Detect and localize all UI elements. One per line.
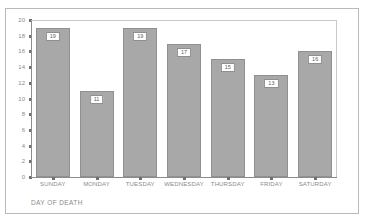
- bar-friday[interactable]: [254, 75, 288, 177]
- bar-value-label: 16: [308, 55, 322, 64]
- bar-value-label: 11: [90, 95, 104, 104]
- bar-value-label: 13: [264, 79, 278, 88]
- bar-value-label: 19: [46, 32, 60, 41]
- bar-thursday[interactable]: [211, 59, 245, 177]
- y-axis-tick-label: 10: [6, 96, 25, 102]
- y-axis-tick-label: 4: [6, 143, 25, 149]
- y-axis-tick-label: 8: [6, 111, 25, 117]
- bar-value-label: 19: [133, 32, 147, 41]
- bar-tuesday[interactable]: [123, 28, 157, 177]
- x-axis-label-friday: FRIDAY: [250, 181, 294, 188]
- x-axis-tick: [270, 177, 273, 180]
- y-axis-tick-label: 2: [6, 158, 25, 164]
- x-axis-tick: [183, 177, 186, 180]
- x-axis-label-thursday: THURSDAY: [206, 181, 250, 188]
- y-axis-tick-label: 14: [6, 64, 25, 70]
- chart-frame: 20181614121086420 19111917151316 SUNDAYM…: [5, 8, 359, 214]
- x-axis-tick: [139, 177, 142, 180]
- y-axis-tick-label: 20: [6, 17, 25, 23]
- x-axis-tick: [52, 177, 55, 180]
- bar-saturday[interactable]: [298, 51, 332, 177]
- x-axis-tick: [227, 177, 230, 180]
- y-axis-tick-label: 18: [6, 33, 25, 39]
- bar-value-label: 17: [177, 48, 191, 57]
- x-axis-title: DAY OF DEATH: [31, 199, 83, 207]
- x-axis-label-sunday: SUNDAY: [31, 181, 75, 188]
- x-axis-label-tuesday: TUESDAY: [118, 181, 162, 188]
- x-axis-label-wednesday: WEDNESDAY: [162, 181, 206, 188]
- x-axis-tick: [314, 177, 317, 180]
- y-axis-tick-label: 6: [6, 127, 25, 133]
- y-axis-tick-label: 0: [6, 174, 25, 180]
- x-axis-label-saturday: SATURDAY: [293, 181, 337, 188]
- x-axis-tick: [96, 177, 99, 180]
- bar-sunday[interactable]: [36, 28, 70, 177]
- bar-value-label: 15: [221, 63, 235, 72]
- chart-page: 20181614121086420 19111917151316 SUNDAYM…: [0, 0, 366, 224]
- y-axis-tick-label: 12: [6, 80, 25, 86]
- bar-wednesday[interactable]: [167, 44, 201, 177]
- y-axis-tick-label: 16: [6, 48, 25, 54]
- x-axis-label-monday: MONDAY: [75, 181, 119, 188]
